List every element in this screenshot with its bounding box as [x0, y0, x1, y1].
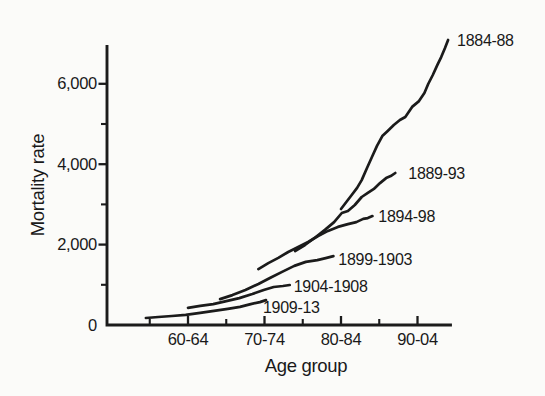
scanned-chart-page: 02,0004,0006,00060-6470-7480-8490-04Age … — [0, 0, 545, 396]
y-tick-label: 6,000 — [57, 74, 97, 92]
series-lines: 1884-881889-931894-981899-19031904-19081… — [146, 32, 514, 318]
y-tick-label: 2,000 — [57, 235, 97, 253]
x-tick-label: 70-74 — [244, 330, 285, 348]
x-axis-title: Age group — [265, 355, 348, 376]
x-tick-label: 80-84 — [321, 330, 362, 348]
axis-frame — [107, 45, 452, 325]
series-label-1894-98: 1894-98 — [378, 208, 435, 225]
y-tick-label: 4,000 — [57, 155, 97, 173]
series-line-1884-88 — [341, 40, 448, 209]
y-tick-label: 0 — [88, 316, 97, 334]
x-tick-label: 90-04 — [397, 330, 438, 348]
series-label-1899-1903: 1899-1903 — [338, 251, 412, 268]
x-tick-label: 60-64 — [168, 330, 209, 348]
series-label-1884-88: 1884-88 — [457, 32, 514, 49]
mortality-cohort-chart: 02,0004,0006,00060-6470-7480-8490-04Age … — [0, 0, 545, 396]
series-label-1904-1908: 1904-1908 — [294, 278, 368, 295]
series-line-1909-13 — [146, 300, 266, 318]
series-label-1889-93: 1889-93 — [408, 165, 465, 182]
y-axis-title: Mortality rate — [27, 134, 48, 237]
series-label-1909-13: 1909-13 — [263, 299, 320, 316]
